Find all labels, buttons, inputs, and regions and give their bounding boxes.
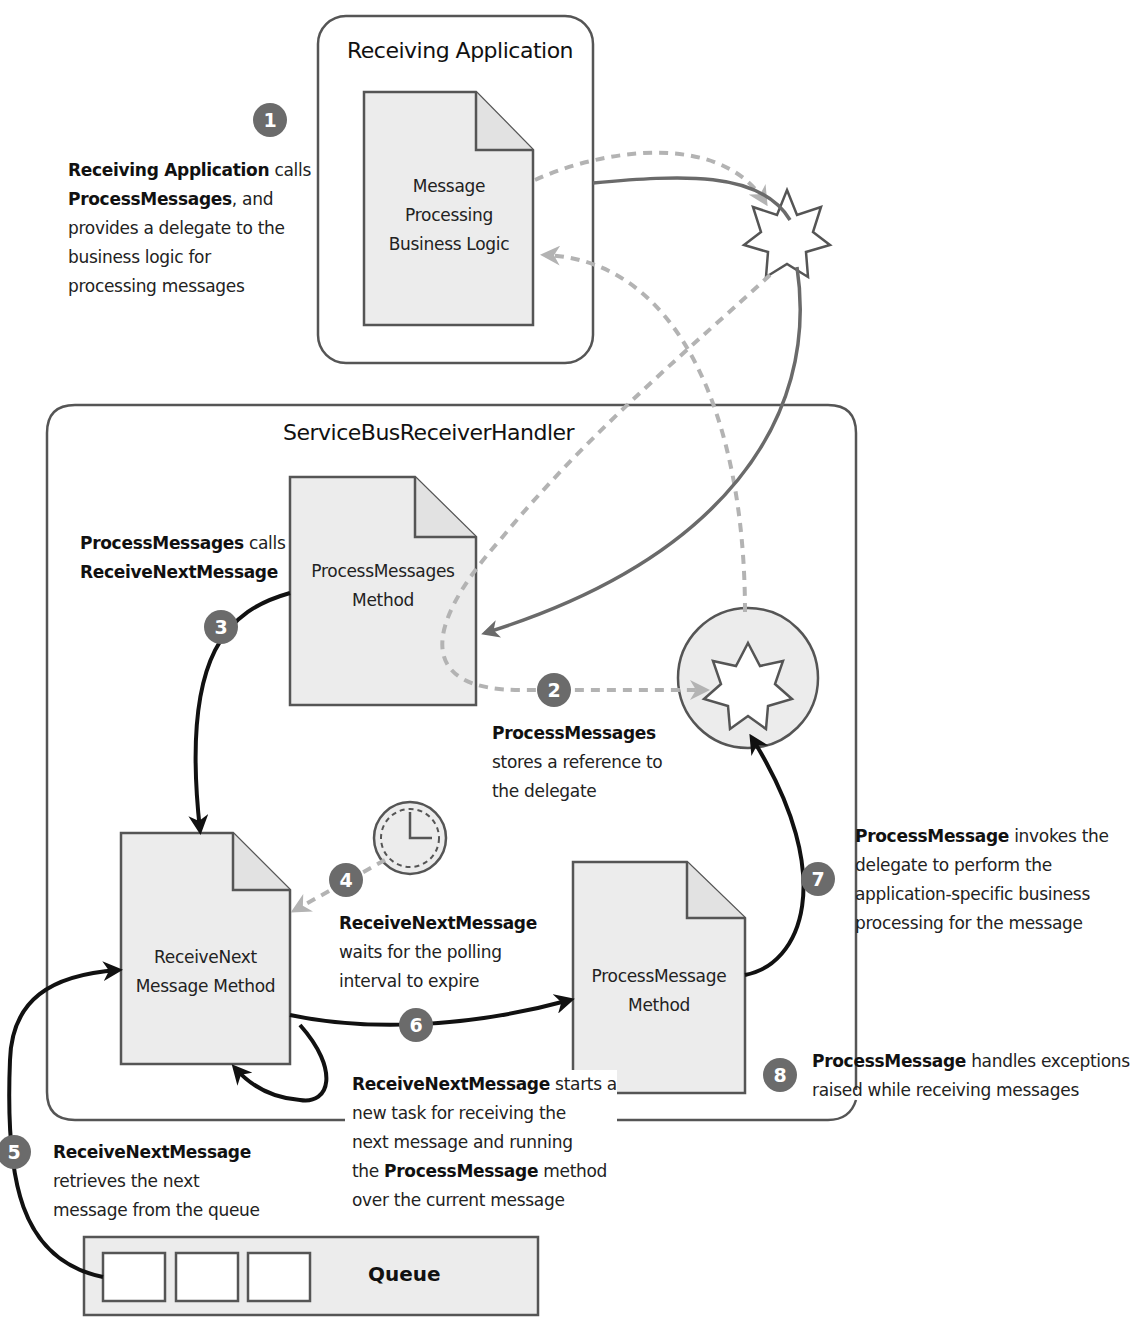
step-badge-8: 8 <box>763 1058 797 1092</box>
step-badge-3: 3 <box>204 610 238 644</box>
business-logic-label: Message Processing Business Logic <box>364 172 534 259</box>
process-message-label: ProcessMessage Method <box>573 962 745 1020</box>
step-5-description: ReceiveNextMessage retrieves the next me… <box>53 1138 260 1225</box>
delegate-star-icon <box>744 190 830 277</box>
step-badge-1: 1 <box>253 103 287 137</box>
step-1-description: Receiving Application calls ProcessMessa… <box>68 156 311 301</box>
queue-slot <box>103 1253 165 1301</box>
receiving-application-title: Receiving Application <box>347 38 573 63</box>
step-3-description: ProcessMessages calls ReceiveNextMessage <box>80 529 286 587</box>
step-2-description: ProcessMessages stores a reference to th… <box>492 719 662 806</box>
step-badge-4: 4 <box>329 863 363 897</box>
step5-arrow <box>9 970 118 1277</box>
step-8-description: ProcessMessage handles exceptions raised… <box>812 1047 1130 1105</box>
step-4-description: ReceiveNextMessage waits for the polling… <box>339 909 537 996</box>
process-messages-label: ProcessMessages Method <box>290 557 476 615</box>
queue <box>84 1237 538 1315</box>
step7-arrow <box>745 738 804 975</box>
step-6-description: ReceiveNextMessage starts a new task for… <box>352 1070 617 1215</box>
queue-slot <box>248 1253 310 1301</box>
step-badge-2: 2 <box>537 673 571 707</box>
step-badge-6: 6 <box>399 1008 433 1042</box>
handler-title: ServiceBusReceiverHandler <box>283 420 574 445</box>
receive-next-label: ReceiveNext Message Method <box>121 943 290 1001</box>
step-7-description: ProcessMessage invokes the delegate to p… <box>855 822 1109 938</box>
queue-label: Queue <box>368 1262 441 1286</box>
queue-slot <box>176 1253 238 1301</box>
step-badge-7: 7 <box>801 862 835 896</box>
clock-icon <box>374 802 446 874</box>
